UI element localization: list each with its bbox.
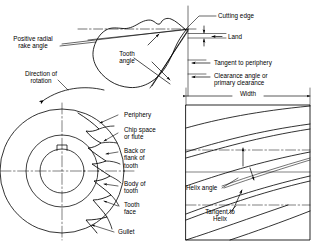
label-chip-space-or-flute: Chip space or flute [124, 126, 156, 141]
direction-of-rotation-arc [44, 88, 104, 100]
label-helix-angle: Helix angle [186, 184, 217, 191]
back-or-flank-leader [106, 152, 118, 154]
label-back-or-flank-of-tooth: Back or flank of tooth [124, 147, 146, 169]
label-land: Land [228, 33, 242, 40]
periphery-leader [100, 115, 118, 123]
diagram-canvas: Positive radial rake angle Direction of … [0, 0, 320, 245]
label-tooth-face: Tooth face [124, 201, 140, 216]
cutter-teeth-profile [78, 113, 111, 233]
label-gullet: Gullet [118, 228, 135, 235]
helix-angle-leader [222, 178, 238, 188]
label-tangent-to-helix: Tangent to Helix [194, 208, 246, 223]
tangent-to-helix-line [222, 158, 310, 188]
clearance-construction-lines [188, 60, 206, 74]
label-periphery: Periphery [124, 111, 151, 118]
cutter-flute-curves [99, 126, 121, 229]
label-clearance-angle: Clearance angle or primary clearance [214, 72, 268, 87]
land-construction-lines [188, 34, 226, 39]
label-positive-radial-rake-angle: Positive radial rake angle [2, 35, 64, 50]
radial-rake-angle-ray [88, 30, 188, 41]
positive-radial-rake-leader [60, 42, 96, 46]
label-body-of-tooth: Body of tooth [124, 180, 146, 195]
tooth-angle-arrow-upper [148, 34, 159, 45]
cutter-center-lines [0, 103, 134, 240]
helix-center-lines [186, 150, 310, 205]
land-dimension-arrows [204, 26, 222, 46]
label-width: Width [228, 90, 268, 97]
body-of-tooth-leader [104, 184, 118, 186]
label-cutting-edge: Cutting edge [218, 12, 254, 19]
label-tangent-to-periphery: Tangent to periphery [214, 59, 272, 66]
cutting-edge-leader [186, 16, 216, 29]
label-direction-of-rotation: Direction of rotation [10, 70, 72, 85]
label-tooth-angle: Tooth angle [111, 50, 143, 65]
